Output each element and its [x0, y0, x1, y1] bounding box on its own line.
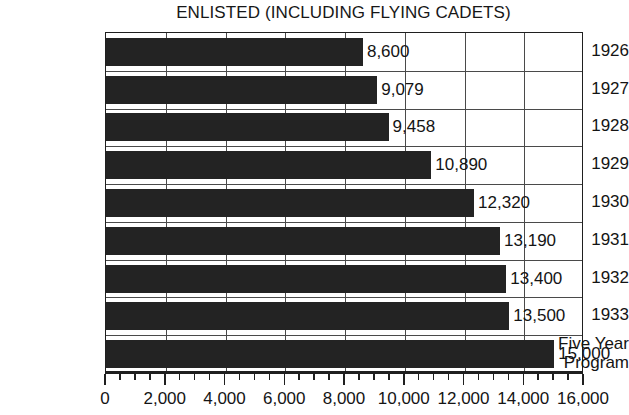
category-label: 1926	[529, 42, 629, 60]
category-label: 1929	[529, 155, 629, 173]
bar	[106, 38, 363, 66]
x-tick-minor	[239, 374, 241, 380]
bar	[106, 265, 506, 293]
x-tick-minor	[493, 374, 495, 380]
bar-value-label: 13,500	[513, 307, 565, 324]
x-tick-label: 14,000	[497, 389, 549, 408]
bar-value-label: 8,600	[367, 43, 410, 60]
x-tick-label: 6,000	[263, 389, 306, 408]
x-tick-label: 0	[100, 389, 109, 408]
x-tick-major	[463, 374, 465, 385]
bar	[106, 340, 554, 368]
x-tick-major	[224, 374, 226, 385]
x-tick-major	[284, 374, 286, 385]
category-label: 1930	[529, 193, 629, 211]
bar-value-label: 13,400	[510, 270, 562, 287]
gridline-horizontal	[106, 335, 582, 336]
x-tick-major	[104, 374, 106, 385]
chart-title: ENLISTED (INCLUDING FLYING CADETS)	[104, 2, 583, 24]
x-tick-minor	[313, 374, 315, 380]
category-label: 1927	[529, 80, 629, 98]
x-tick-major	[343, 374, 345, 385]
x-tick-minor	[508, 374, 510, 380]
x-tick-label: 16,000	[557, 389, 609, 408]
x-tick-minor	[298, 374, 300, 380]
x-tick-minor	[269, 374, 271, 380]
x-tick-minor	[149, 374, 151, 380]
bar	[106, 151, 431, 179]
x-tick-minor	[328, 374, 330, 380]
x-tick-label: 2,000	[143, 389, 186, 408]
x-tick-major	[523, 374, 525, 385]
x-tick-minor	[179, 374, 181, 380]
x-tick-minor	[478, 374, 480, 380]
x-tick-minor	[388, 374, 390, 380]
bar-value-label: 9,458	[393, 118, 436, 135]
x-tick-minor	[358, 374, 360, 380]
bar-value-label: 13,190	[504, 232, 556, 249]
gridline-horizontal	[106, 109, 582, 110]
bar-value-label: 15,000	[558, 345, 610, 362]
x-tick-major	[582, 374, 584, 385]
gridline-horizontal	[106, 222, 582, 223]
x-tick-minor	[209, 374, 211, 380]
x-tick-label: 10,000	[378, 389, 430, 408]
bar	[106, 113, 389, 141]
bar-chart: ENLISTED (INCLUDING FLYING CADETS) 19261…	[0, 0, 629, 415]
x-tick-minor	[254, 374, 256, 380]
x-tick-minor	[134, 374, 136, 380]
gridline-horizontal	[106, 260, 582, 261]
bar-value-label: 12,320	[478, 194, 530, 211]
x-tick-minor	[552, 374, 554, 380]
x-tick-minor	[119, 374, 121, 380]
x-tick-minor	[194, 374, 196, 380]
x-tick-label: 4,000	[203, 389, 246, 408]
bar	[106, 189, 474, 217]
x-tick-minor	[433, 374, 435, 380]
gridline-horizontal	[106, 71, 582, 72]
x-tick-label: 12,000	[438, 389, 490, 408]
x-tick-major	[164, 374, 166, 385]
bar-value-label: 10,890	[435, 156, 487, 173]
gridline-horizontal	[106, 297, 582, 298]
gridline-horizontal	[106, 146, 582, 147]
category-label: 1928	[529, 117, 629, 135]
gridline-horizontal	[106, 184, 582, 185]
bar	[106, 76, 377, 104]
x-tick-minor	[537, 374, 539, 380]
x-tick-minor	[418, 374, 420, 380]
x-tick-minor	[373, 374, 375, 380]
x-tick-minor	[448, 374, 450, 380]
bar	[106, 302, 509, 330]
x-tick-major	[403, 374, 405, 385]
x-tick-minor	[567, 374, 569, 380]
bar	[106, 227, 500, 255]
x-tick-label: 8,000	[323, 389, 366, 408]
bar-value-label: 9,079	[381, 81, 424, 98]
